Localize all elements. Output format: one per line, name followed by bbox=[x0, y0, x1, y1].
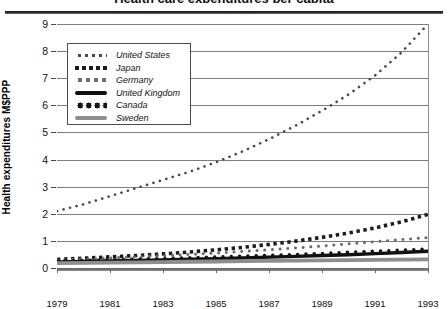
y-axis-tick bbox=[51, 24, 56, 25]
legend-item-label: Sweden bbox=[116, 113, 149, 123]
legend-swatch-icon bbox=[75, 52, 107, 59]
y-axis-caption: Health expenditures M$PPP bbox=[0, 62, 14, 232]
y-axis-tick bbox=[51, 105, 56, 106]
legend-swatch-icon bbox=[75, 91, 107, 95]
legend-item-label: Canada bbox=[116, 100, 148, 110]
y-axis-tick bbox=[51, 51, 56, 52]
legend-item-label: Japan bbox=[116, 63, 141, 73]
y-axis-tick-label: 6 bbox=[42, 99, 48, 111]
legend-swatch-icon bbox=[75, 116, 107, 120]
y-axis-tick-label: 1 bbox=[42, 235, 48, 247]
y-axis-tick-label: 7 bbox=[42, 72, 48, 84]
x-axis-tick-label: 1981 bbox=[99, 298, 120, 309]
x-axis-tick bbox=[375, 268, 376, 273]
x-axis-tick bbox=[216, 268, 217, 273]
legend-item-united-states[interactable]: United States bbox=[68, 49, 190, 62]
legend-swatch-icon bbox=[75, 101, 107, 110]
x-axis-tick-label: 1993 bbox=[417, 298, 438, 309]
legend-item-japan[interactable]: Japan bbox=[68, 62, 190, 75]
y-axis-tick bbox=[51, 78, 56, 79]
y-axis-tick bbox=[51, 241, 56, 242]
x-axis-tick bbox=[163, 268, 164, 273]
x-axis-tick bbox=[269, 268, 270, 273]
y-axis-caption-label: Health expenditures M$PPP bbox=[1, 80, 12, 215]
y-axis-tick bbox=[51, 214, 56, 215]
y-axis-tick-label: 8 bbox=[42, 45, 48, 57]
x-axis-tick-label: 1985 bbox=[205, 298, 226, 309]
x-axis-tick-label: 1989 bbox=[311, 298, 332, 309]
y-axis-tick-label: 3 bbox=[42, 181, 48, 193]
legend-item-canada[interactable]: Canada bbox=[68, 99, 190, 112]
y-axis-tick-label: 4 bbox=[42, 154, 48, 166]
x-axis-tick-label: 1979 bbox=[46, 298, 67, 309]
x-axis-tick bbox=[322, 268, 323, 273]
x-axis-tick bbox=[110, 268, 111, 273]
x-axis-tick bbox=[428, 268, 429, 273]
y-axis-tick bbox=[51, 132, 56, 133]
x-axis-tick bbox=[57, 268, 58, 273]
title-divider bbox=[5, 11, 443, 14]
legend-item-united-kingdom[interactable]: United Kingdom bbox=[68, 87, 190, 100]
legend-item-germany[interactable]: Germany bbox=[68, 74, 190, 87]
y-axis-tick bbox=[51, 187, 56, 188]
legend-item-sweden[interactable]: Sweden bbox=[68, 112, 190, 125]
y-axis-tick bbox=[51, 160, 56, 161]
legend-swatch-icon bbox=[75, 66, 107, 70]
x-axis-line bbox=[57, 268, 429, 271]
y-axis-tick-label: 9 bbox=[42, 18, 48, 30]
x-axis-tick-label: 1991 bbox=[364, 298, 385, 309]
legend-item-label: Germany bbox=[116, 75, 153, 85]
legend: United StatesJapanGermanyUnited KingdomC… bbox=[67, 43, 191, 125]
legend-item-label: United Kingdom bbox=[116, 88, 180, 98]
chart-title: Health care expenditures per capita bbox=[0, 0, 448, 3]
x-axis-tick-label: 1983 bbox=[152, 298, 173, 309]
x-axis-tick-label: 1987 bbox=[258, 298, 279, 309]
y-axis-tick-label: 0 bbox=[42, 262, 48, 274]
y-axis-tick bbox=[51, 268, 56, 269]
y-axis-tick-label: 5 bbox=[42, 126, 48, 138]
legend-swatch-icon bbox=[75, 76, 107, 84]
y-axis-tick-label: 2 bbox=[42, 208, 48, 220]
legend-item-label: United States bbox=[116, 50, 170, 60]
